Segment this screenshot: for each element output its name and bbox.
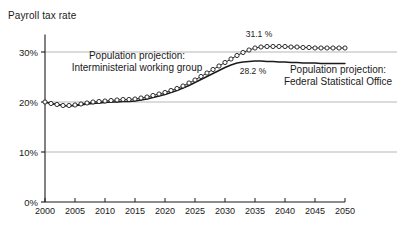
series-marker — [205, 71, 209, 75]
series-marker — [91, 100, 95, 104]
federal-office-label: Population projection:Federal Statistica… — [284, 64, 393, 87]
series-marker — [247, 48, 251, 52]
payroll-tax-rate-chart: 0%10%20%30% 2000200520102015202020252030… — [0, 0, 408, 234]
series-marker — [121, 97, 125, 101]
x-tick-label-2015: 2015 — [125, 206, 145, 216]
x-tick-label-2010: 2010 — [95, 206, 115, 216]
x-tick-label-2035: 2035 — [245, 206, 265, 216]
series-marker — [343, 46, 347, 50]
series-marker — [103, 99, 107, 103]
series-marker — [97, 99, 101, 103]
series-marker — [265, 44, 269, 48]
series-marker — [139, 96, 143, 100]
series-marker — [85, 101, 89, 105]
series-marker — [271, 44, 275, 48]
series-marker — [55, 102, 59, 106]
chart-container: Payroll tax rate 0%10%20%30% 20002005201… — [0, 0, 408, 234]
series-marker — [229, 57, 233, 61]
series-marker — [43, 100, 47, 104]
x-tick-label-2040: 2040 — [275, 206, 295, 216]
series-marker — [253, 46, 257, 50]
series-marker — [283, 44, 287, 48]
interministerial-label: Population projection:Interministerial w… — [72, 50, 203, 73]
x-tick-label-2025: 2025 — [185, 206, 205, 216]
series-marker — [259, 45, 263, 49]
x-axis-ticks — [45, 198, 345, 202]
series-marker — [79, 102, 83, 106]
peak-interministerial: 31.1 % — [246, 29, 273, 39]
series-marker — [73, 103, 77, 107]
series-marker — [277, 44, 281, 48]
series-marker — [319, 46, 323, 50]
series-marker — [187, 81, 191, 85]
series-marker — [289, 45, 293, 49]
series-annotations: Population projection:Interministerial w… — [72, 50, 393, 87]
series-marker — [199, 74, 203, 78]
series-marker — [61, 103, 65, 107]
series-marker — [151, 93, 155, 97]
series-marker — [235, 53, 239, 57]
interministerial-label-line2: Interministerial working group — [72, 62, 203, 73]
x-tick-label-2020: 2020 — [155, 206, 175, 216]
series-marker — [223, 60, 227, 64]
x-tick-label-2000: 2000 — [35, 206, 55, 216]
series-marker — [145, 95, 149, 99]
series-marker — [169, 88, 173, 92]
x-axis-tick-labels: 2000200520102015202020252030203520402045… — [35, 206, 355, 216]
peak-federal: 28.2 % — [240, 66, 267, 76]
series-marker — [163, 90, 167, 94]
x-tick-label-2005: 2005 — [65, 206, 85, 216]
series-marker — [211, 67, 215, 71]
series-marker — [109, 98, 113, 102]
series-marker — [241, 50, 245, 54]
series-marker — [115, 98, 119, 102]
series-marker — [337, 46, 341, 50]
y-tick-label-10: 10% — [19, 147, 39, 158]
series-marker — [313, 46, 317, 50]
y-tick-label-20: 20% — [19, 97, 39, 108]
series-marker — [157, 92, 161, 96]
series-marker — [193, 78, 197, 82]
series-marker — [49, 101, 53, 105]
federal-office-label-line2: Federal Statistical Office — [284, 76, 393, 87]
series-marker — [307, 45, 311, 49]
axes — [41, 35, 345, 203]
series-marker — [181, 84, 185, 88]
series-marker — [175, 86, 179, 90]
x-tick-label-2050: 2050 — [335, 206, 355, 216]
series-marker — [67, 103, 71, 107]
series-marker — [301, 45, 305, 49]
series-marker — [295, 45, 299, 49]
federal-office-label-line1: Population projection: — [290, 64, 386, 75]
x-tick-label-2030: 2030 — [215, 206, 235, 216]
x-tick-label-2045: 2045 — [305, 206, 325, 216]
series-marker — [325, 46, 329, 50]
series-marker — [127, 97, 131, 101]
series-marker — [217, 64, 221, 68]
y-tick-label-30: 30% — [19, 47, 39, 58]
series-marker — [331, 46, 335, 50]
y-axis-tick-labels: 0%10%20%30% — [19, 47, 39, 208]
interministerial-label-line1: Population projection: — [89, 50, 185, 61]
series-marker — [133, 97, 137, 101]
